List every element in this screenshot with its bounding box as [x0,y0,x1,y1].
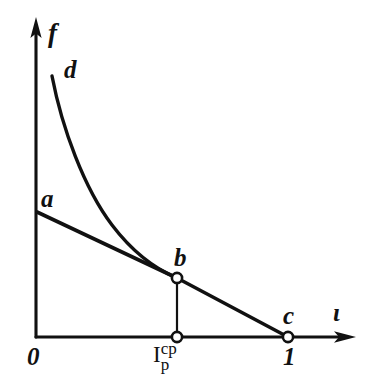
x-tick-label-one: 1 [283,344,296,369]
marker-point-b [172,273,182,283]
point-label-c: c [283,303,294,328]
origin-label: 0 [27,344,40,369]
tick-subscript: р [161,356,170,373]
line-abc [37,212,288,337]
x-tick-label-mean-pressure: Iсрр [153,343,183,366]
y-axis-label: f [48,20,57,47]
point-label-b: b [174,245,187,270]
tick-base-symbol: I [153,342,161,367]
plot-svg [0,0,374,388]
figure-container: f ι d a b c 0 1 Iсрр [0,0,374,388]
point-label-a: a [41,186,54,211]
marker-point-c [283,332,293,342]
curve-label-d: d [64,57,77,82]
x-axis-label: ι [333,300,340,325]
